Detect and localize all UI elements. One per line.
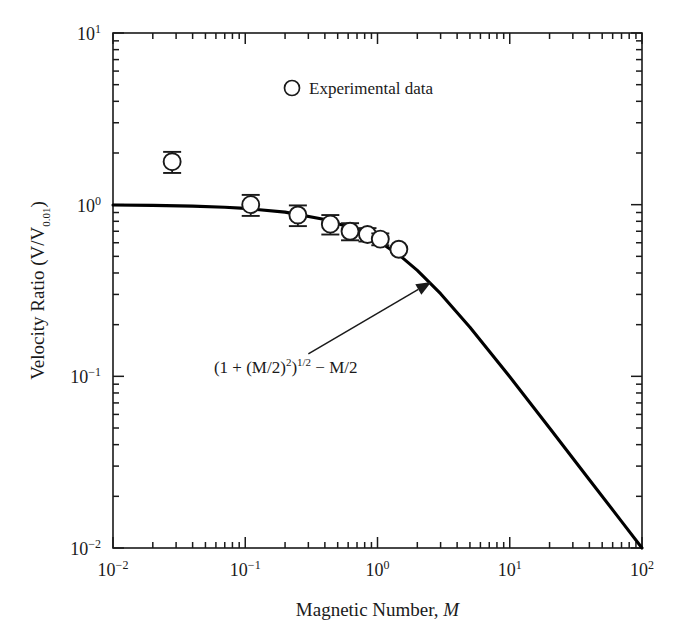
legend-label-experimental-data: Experimental data xyxy=(309,79,434,98)
open-circle-marker xyxy=(322,216,339,233)
x-tick-label: 10−2 xyxy=(98,558,129,580)
data-point-with-errorbar xyxy=(341,223,359,241)
data-point-with-errorbar xyxy=(371,231,389,248)
experimental-data-points xyxy=(163,152,407,258)
y-tick-label: 10−1 xyxy=(70,365,101,387)
model-curve-group xyxy=(113,205,642,548)
open-circle-marker xyxy=(289,207,306,224)
x-axis-title: Magnetic Number, M xyxy=(296,599,461,620)
figure-container: 10−210−110010110210110010−110−2 (1 + (M/… xyxy=(0,0,684,636)
x-tick-label: 102 xyxy=(630,558,654,580)
data-point-with-errorbar xyxy=(390,241,407,258)
y-tick-label: 10−2 xyxy=(70,537,101,559)
annotation-arrow-group xyxy=(308,282,431,354)
x-tick-label: 10−1 xyxy=(230,558,261,580)
legend: Experimental data xyxy=(285,79,434,98)
data-point-with-errorbar xyxy=(321,215,339,234)
open-circle-marker xyxy=(372,231,389,248)
data-point-with-errorbar xyxy=(242,195,260,216)
y-tick-label: 101 xyxy=(77,22,101,44)
axes-border xyxy=(113,33,642,548)
model-equation-annotation: (1 + (M/2)2)1/2 − M/2 xyxy=(214,356,358,377)
axis-ticks xyxy=(113,33,642,548)
axis-tick-labels: 10−210−110010110210110010−110−2 xyxy=(70,22,654,580)
open-circle-marker xyxy=(390,241,407,258)
annotation-arrow-line xyxy=(308,289,418,353)
plot-frame xyxy=(113,33,642,548)
annotation-arrow-head xyxy=(415,282,431,295)
chart-canvas: 10−210−110010110210110010−110−2 (1 + (M/… xyxy=(0,0,684,636)
data-point-with-errorbar xyxy=(163,152,181,173)
open-circle-marker xyxy=(242,196,259,213)
model-curve-line xyxy=(113,205,642,548)
x-tick-label: 101 xyxy=(498,558,522,580)
x-tick-label: 100 xyxy=(366,558,390,580)
data-point-with-errorbar xyxy=(289,205,307,226)
open-circle-marker xyxy=(342,223,359,240)
open-circle-marker xyxy=(164,153,181,170)
legend-open-circle-icon xyxy=(285,81,300,96)
y-axis-title: Velocity Ratio (V/V0.01) xyxy=(27,201,52,380)
y-tick-label: 100 xyxy=(77,194,101,216)
